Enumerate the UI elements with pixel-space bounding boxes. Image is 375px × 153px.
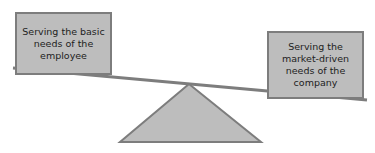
right-pan-label: Serving the market-driven needs of the c…	[272, 41, 359, 89]
left-pan-label: Serving the basic needs of the employee	[20, 26, 107, 62]
fulcrum-triangle	[120, 84, 261, 142]
left-pan-box: Serving the basic needs of the employee	[15, 12, 112, 75]
right-pan-box: Serving the market-driven needs of the c…	[267, 31, 364, 99]
